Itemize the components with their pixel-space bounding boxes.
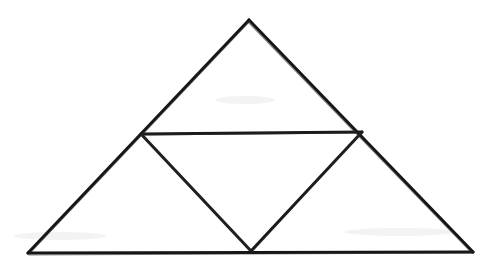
triangle-subdivision-figure <box>0 0 493 270</box>
ink-jitter-medial-left <box>142 135 252 252</box>
scan-smudge <box>14 232 106 240</box>
ink-jitter-left-edge <box>29 21 250 254</box>
scan-smudge <box>345 228 455 236</box>
outer-left-edge <box>28 20 249 253</box>
ink-jitter-medial-right <box>252 133 361 252</box>
scan-smudge <box>215 96 275 104</box>
diagram-canvas <box>0 0 493 270</box>
